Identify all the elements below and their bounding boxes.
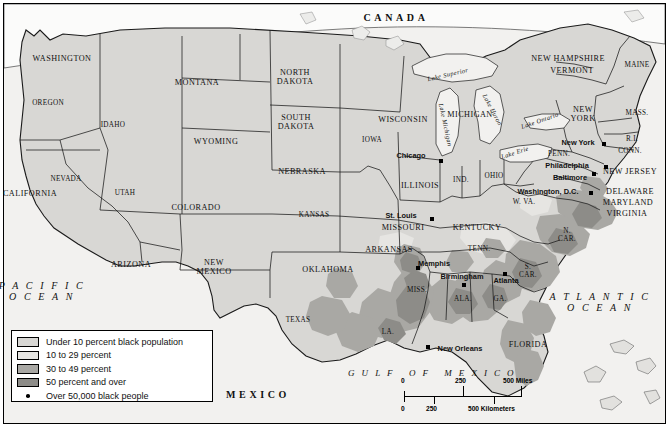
scale-bar: 0 250 500 Miles 0 250 500 Kilometers — [404, 381, 549, 415]
legend-dot-cell — [17, 394, 39, 398]
scale-label-km-zero: 0 — [401, 405, 405, 412]
lake-ontario-shape — [524, 114, 570, 130]
scale-tick-left — [404, 391, 405, 402]
legend-row-3: 50 percent and over — [17, 376, 207, 390]
scale-label-miles-mid: 250 — [455, 377, 466, 384]
legend-label-3: 50 percent and over — [46, 377, 126, 387]
scale-tick-mid-km — [434, 396, 435, 404]
legend-swatch-3 — [17, 378, 39, 388]
city-dot-memphis — [416, 266, 420, 270]
map-legend: Under 10 percent black population10 to 2… — [11, 330, 213, 402]
scale-label-km-mid: 250 — [426, 405, 437, 412]
city-dot-philadelphia — [604, 165, 608, 169]
city-dot-new-york-city — [602, 142, 606, 146]
scale-label-miles-end: 500 Miles — [503, 377, 532, 384]
legend-swatch-2 — [17, 364, 39, 374]
legend-swatch-1 — [17, 351, 39, 361]
map-figure: CANADAMEXICOP A C I F I C O C E A NA T L… — [0, 0, 669, 427]
legend-row-4: Over 50,000 black people — [17, 389, 207, 403]
scale-tick-right — [521, 386, 522, 397]
scale-tick-km-500 — [494, 396, 495, 404]
legend-city-dot-icon — [26, 394, 30, 398]
city-dot-baltimore — [592, 172, 596, 176]
scale-label-km-end: 500 Kilometers — [468, 405, 515, 412]
scale-label-miles-zero: 0 — [401, 377, 405, 384]
city-dot-new-orleans — [426, 345, 430, 349]
legend-row-2: 30 to 49 percent — [17, 362, 207, 376]
city-dot-birmingham — [462, 283, 466, 287]
scale-tick-mid-miles — [463, 386, 464, 397]
legend-row-0: Under 10 percent black population — [17, 335, 207, 349]
legend-row-1: 10 to 29 percent — [17, 349, 207, 363]
city-dot-washington-dc — [589, 191, 593, 195]
legend-swatch-0 — [17, 337, 39, 347]
legend-label-2: 30 to 49 percent — [46, 364, 111, 374]
legend-label-4: Over 50,000 black people — [46, 391, 149, 401]
city-dot-atlanta — [503, 272, 507, 276]
city-dot-chicago — [439, 159, 443, 163]
city-dot-st-louis — [430, 217, 434, 221]
legend-label-1: 10 to 29 percent — [46, 350, 111, 360]
legend-label-0: Under 10 percent black population — [46, 337, 183, 347]
